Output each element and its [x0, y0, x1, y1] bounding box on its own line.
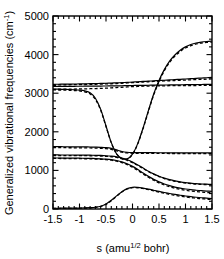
x-tick-label: -0.5: [97, 213, 116, 225]
x-tick-label: 0: [129, 213, 135, 225]
y-tick-label: 3000: [25, 87, 49, 99]
y-tick-label: 2000: [25, 126, 49, 138]
vibrational-frequency-chart: -1.5-1-0.500.511.5 010002000300040005000…: [0, 0, 224, 259]
x-tick-labels: -1.5-1-0.500.511.5: [44, 213, 220, 225]
x-axis-title: s (amu1/2 bohr): [97, 241, 170, 254]
y-tick-labels: 010002000300040005000: [25, 10, 49, 215]
y-axis-title-main: Generalized vibrational frequencies (cm: [3, 21, 15, 215]
y-axis-title: Generalized vibrational frequencies (cm-…: [2, 11, 15, 215]
x-tick-label: 1: [182, 213, 188, 225]
y-axis-title-close: ): [3, 11, 15, 15]
x-tick-label: 0.5: [151, 213, 166, 225]
x-axis-title-exponent: 1/2: [130, 241, 140, 250]
y-tick-label: 5000: [25, 10, 49, 22]
x-tick-label: 1.5: [204, 213, 219, 225]
y-tick-label: 0: [43, 203, 49, 215]
y-tick-label: 4000: [25, 49, 49, 61]
figure-container: -1.5-1-0.500.511.5 010002000300040005000…: [0, 0, 224, 259]
y-axis-title-exponent: -1: [2, 15, 11, 22]
y-tick-label: 1000: [25, 164, 49, 176]
x-axis-title-close: bohr): [141, 242, 170, 254]
x-axis-title-main: s (amu: [97, 242, 131, 254]
x-tick-label: -1: [75, 213, 85, 225]
plot-area-background: [53, 16, 212, 209]
